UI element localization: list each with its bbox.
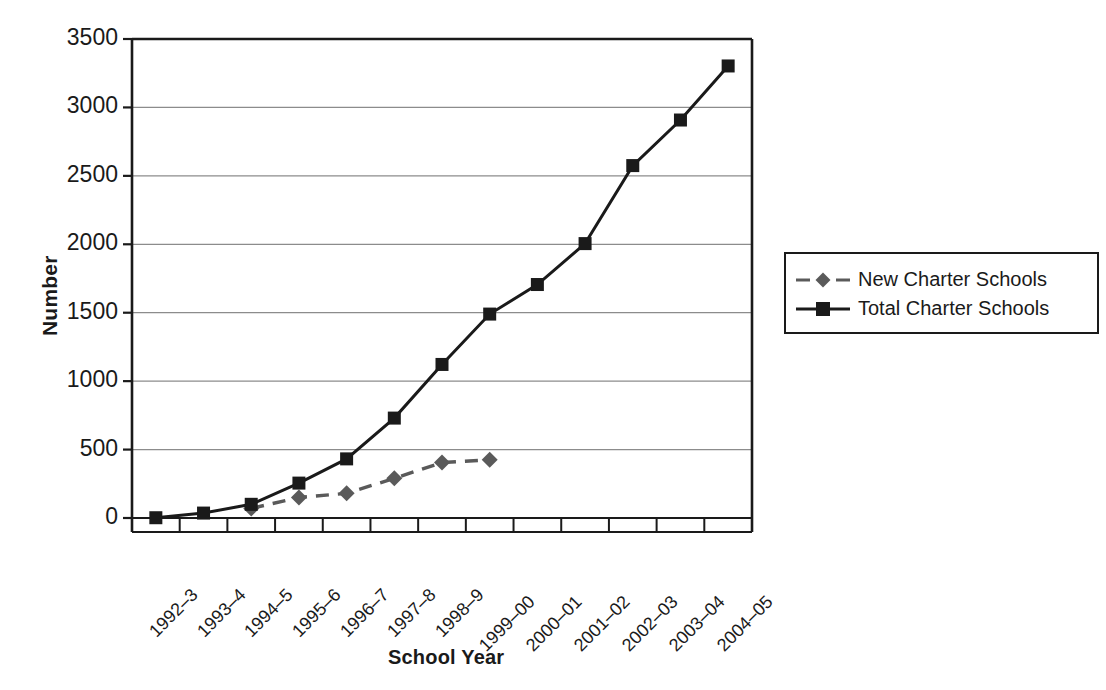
gridlines	[132, 107, 752, 449]
x-axis-tick-marks	[132, 518, 752, 532]
legend-marker-square-icon	[794, 298, 852, 320]
chart-figure: Number School Year 050010001500200025003…	[0, 0, 1106, 690]
legend-label-total-charter-schools: Total Charter Schools	[852, 297, 1049, 320]
legend-item-new-charter-schools: New Charter Schools	[794, 265, 1097, 294]
y-axis-tick-label: 3500	[67, 24, 118, 51]
legend-item-total-charter-schools: Total Charter Schools	[794, 294, 1097, 323]
legend-marker-diamond-icon	[794, 269, 852, 291]
y-axis-tick-label: 500	[80, 435, 118, 462]
y-axis-tick-label: 1000	[67, 366, 118, 393]
y-axis-tick-label: 2500	[67, 161, 118, 188]
y-axis-tick-label: 2000	[67, 229, 118, 256]
y-axis-tick-marks	[123, 39, 132, 518]
y-axis-tick-label: 3000	[67, 92, 118, 119]
chart-legend: New Charter Schools Total Charter School…	[784, 252, 1099, 334]
data-series-layer	[149, 59, 734, 524]
y-axis-tick-label: 1500	[67, 298, 118, 325]
plot-area	[0, 0, 1106, 690]
y-axis-tick-label: 0	[105, 503, 118, 530]
legend-label-new-charter-schools: New Charter Schools	[852, 268, 1047, 291]
